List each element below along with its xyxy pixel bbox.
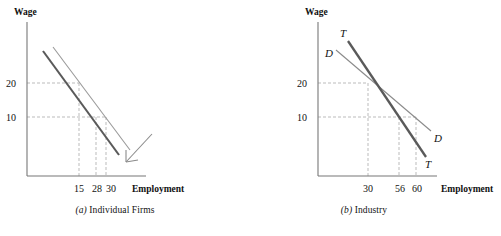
shift-arrow-shaft — [126, 134, 152, 162]
curve-label-T-bottom: T — [425, 158, 432, 170]
x-tick-60: 60 — [412, 183, 422, 194]
panel-a-caption-text: Individual Firms — [89, 205, 154, 215]
demand-curve-D — [336, 50, 431, 131]
y-tick-20: 20 — [297, 78, 307, 89]
x-tick-56: 56 — [395, 183, 405, 194]
panel-individual-firms: Wage Employment 20 10 15 28 30 (a) Indiv… — [0, 0, 250, 236]
panel-b-caption-text: Industry — [355, 205, 387, 215]
x-tick-15: 15 — [74, 183, 84, 194]
panel-b-plot: Wage Employment 20 10 30 56 60 T D D T — [251, 0, 501, 200]
curve-label-T-top: T — [340, 27, 347, 39]
x-axis-label: Employment — [132, 184, 185, 194]
panel-b-caption: (b) Industry — [239, 205, 489, 215]
y-tick-10: 10 — [297, 112, 307, 123]
demand-curve-T — [348, 41, 426, 157]
y-tick-10: 10 — [6, 112, 16, 123]
demand-curve-shifted — [43, 51, 119, 155]
x-axis-label: Employment — [441, 184, 494, 194]
y-axis-label: Wage — [14, 7, 37, 17]
x-tick-30: 30 — [106, 183, 116, 194]
demand-curve-original — [53, 47, 130, 150]
panel-a-plot: Wage Employment 20 10 15 28 30 — [0, 0, 250, 200]
panel-a-caption-prefix: (a) — [75, 205, 86, 215]
panel-b-caption-prefix: (b) — [341, 205, 352, 215]
panel-industry: Wage Employment 20 10 30 56 60 T D D T (… — [251, 0, 501, 236]
panel-a-caption: (a) Individual Firms — [0, 205, 240, 215]
x-tick-30: 30 — [363, 183, 373, 194]
curve-label-D-top: D — [324, 47, 333, 59]
labor-demand-figure: Wage Employment 20 10 15 28 30 (a) Indiv… — [0, 0, 501, 236]
x-tick-28: 28 — [92, 183, 102, 194]
curve-label-D-bottom: D — [433, 132, 442, 144]
y-axis-label: Wage — [305, 7, 328, 17]
y-tick-20: 20 — [6, 78, 16, 89]
